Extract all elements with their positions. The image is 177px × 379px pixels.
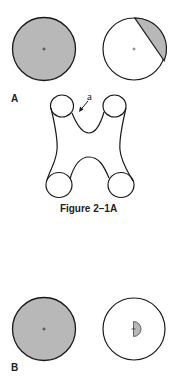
panel-b [13,298,166,361]
panel-a-left-circle [13,18,76,81]
panel-label-a: A [11,93,18,104]
annotation-arrow [79,101,88,112]
figure-canvas [0,0,177,379]
h-shape [46,95,134,198]
figure-caption: Figure 2–1A [0,203,177,214]
panel-a [13,18,167,81]
panel-label-b: B [11,362,18,373]
panel-b-right-circle [103,298,165,360]
annotation-label: a [87,90,92,102]
panel-a-right-circle [103,18,167,80]
panel-b-left-circle [13,298,76,361]
